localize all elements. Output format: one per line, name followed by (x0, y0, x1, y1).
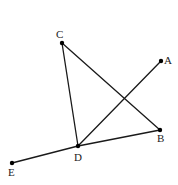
point-label-b: B (157, 132, 164, 144)
segment-cb (62, 43, 160, 130)
point-e (10, 161, 14, 165)
point-label-c: C (56, 28, 63, 40)
segments-group (12, 43, 161, 163)
segment-db (78, 130, 160, 146)
segment-da (78, 61, 161, 146)
segment-ed (12, 146, 78, 163)
point-label-a: A (164, 54, 172, 66)
segment-cd (62, 43, 78, 146)
labels-group: ABCDE (8, 28, 172, 178)
point-a (159, 59, 163, 63)
points-group (10, 41, 163, 165)
geometry-diagram: ABCDE (0, 0, 178, 185)
point-d (76, 144, 80, 148)
point-label-e: E (8, 166, 15, 178)
point-label-d: D (74, 151, 82, 163)
point-c (60, 41, 64, 45)
